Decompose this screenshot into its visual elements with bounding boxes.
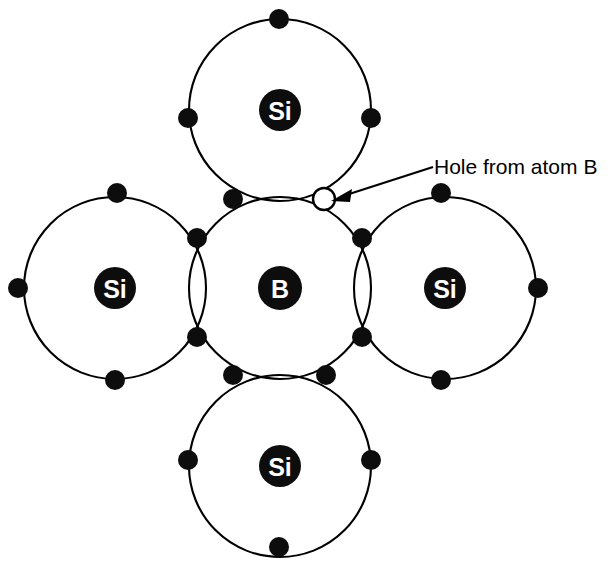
shared-electron-left-bottom	[187, 327, 207, 347]
shared-electron-bottom-right	[316, 365, 336, 385]
nucleus-bottom-si: Si	[259, 445, 301, 487]
outer-electron-top-si-top	[269, 9, 289, 29]
outer-electron-left-si-left	[8, 278, 28, 298]
nucleus-right-si: Si	[424, 267, 466, 309]
shared-electron-right-bottom	[352, 327, 372, 347]
nucleus-label-top-si: Si	[268, 97, 292, 125]
nucleus-label-right-si: Si	[433, 275, 457, 303]
leader-line-path	[343, 167, 433, 196]
diagram-canvas: Si Si Si Si B	[0, 0, 608, 563]
shared-electron-right-top	[352, 228, 372, 248]
outer-electron-right-si-right	[528, 278, 548, 298]
nucleus-label-bottom-si: Si	[268, 453, 292, 481]
outer-electron-bottom-si-right	[361, 450, 381, 470]
nucleus-label-center-b: B	[271, 275, 289, 303]
outer-electron-left-si-top	[107, 183, 127, 203]
hole-marker	[313, 188, 335, 210]
outer-electron-bottom-si-left	[178, 450, 198, 470]
outer-electron-bottom-si-bottom	[269, 537, 289, 557]
outer-electron-top-si-right	[361, 108, 381, 128]
nucleus-label-left-si: Si	[103, 275, 127, 303]
outer-electron-right-si-top	[431, 183, 451, 203]
shared-electron-bottom-left	[223, 365, 243, 385]
shared-electron-left-top	[187, 228, 207, 248]
hole-callout-label: Hole from atom B	[434, 155, 597, 178]
outer-electron-left-si-bottom	[105, 370, 125, 390]
outer-electron-right-si-bottom	[431, 370, 451, 390]
nucleus-top-si: Si	[259, 89, 301, 131]
shared-electron-top-left	[223, 189, 243, 209]
outer-electron-top-si-left	[178, 108, 198, 128]
covalent-bond-diagram: Si Si Si Si B	[0, 0, 608, 563]
nucleus-left-si: Si	[94, 267, 136, 309]
nucleus-center-b: B	[258, 266, 302, 310]
